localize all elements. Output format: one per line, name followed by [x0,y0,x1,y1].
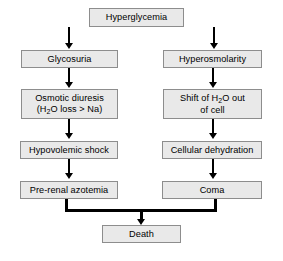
node-cellular-dehydration-label: Cellular dehydration [163,145,261,156]
node-shift-water-out-of-cell: Shift of H2O out of cell [163,89,262,119]
node-shift-water-subscript: 2 [218,97,222,104]
node-shift-water-line1-prefix: Shift of H [180,93,218,103]
node-death: Death [102,225,181,243]
node-shift-water-line1-suffix: O out [222,93,245,103]
node-cellular-dehydration: Cellular dehydration [162,141,262,159]
node-osmotic-diuresis-line2-prefix: (H [37,104,47,114]
arrowhead-prerenal-azotemia [65,173,73,179]
node-hypovolemic-shock-label: Hypovolemic shock [21,145,117,156]
arrowhead-cellular-dehydration [209,133,217,139]
node-prerenal-azotemia: Pre-renal azotemia [20,181,118,199]
arrowhead-hyperosmolarity [210,43,218,49]
node-glycosuria: Glycosuria [21,50,118,68]
node-prerenal-azotemia-label: Pre-renal azotemia [21,185,117,196]
node-death-label: Death [103,229,180,240]
node-coma-label: Coma [163,185,261,196]
node-osmotic-diuresis-line1: Osmotic diuresis [35,93,104,103]
connector-hyperglycemia-to-hyperosmolarity [213,27,215,44]
arrowhead-hypovolemic-shock [65,133,73,139]
node-hyperglycemia-label: Hyperglycemia [90,12,183,23]
node-hyperosmolarity-label: Hyperosmolarity [164,54,261,65]
node-hyperglycemia: Hyperglycemia [89,8,184,27]
flowchart-diagram: Hyperglycemia Glycosuria Hyperosmolarity… [0,0,283,261]
arrowhead-glycosuria [65,43,73,49]
node-glycosuria-label: Glycosuria [22,54,117,65]
node-osmotic-diuresis-subscript: 2 [46,108,50,115]
node-osmotic-diuresis: Osmotic diuresis (H2O loss > Na) [21,89,118,119]
node-coma: Coma [162,181,262,199]
connector-hyperglycemia-to-glycosuria [68,27,70,44]
arrowhead-coma [209,173,217,179]
node-osmotic-diuresis-line2-suffix: O loss > Na) [50,104,102,114]
node-hyperosmolarity: Hyperosmolarity [163,50,262,68]
node-hypovolemic-shock: Hypovolemic shock [20,141,118,159]
arrowhead-shift-water [209,82,217,88]
node-shift-water-line2: of cell [200,105,224,115]
arrowhead-osmotic-diuresis [65,82,73,88]
